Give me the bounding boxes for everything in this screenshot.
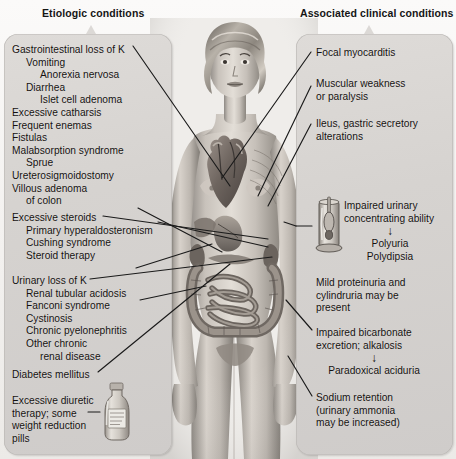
line-islet-cell-adenoma: Islet cell adenoma — [12, 94, 125, 107]
line-fanconi-syndrome: Fanconi syndrome — [12, 300, 127, 313]
line-renal-tubular-acidosis: Renal tubular acidosis — [12, 288, 127, 301]
group-diuretic-therapy: Excessive diuretic therapy; some weight … — [12, 395, 94, 445]
line-sprue: Sprue — [12, 157, 125, 170]
arrow-down-icon-urinary: ↓ — [344, 225, 436, 238]
item-ileus-gastric: Ileus, gastric secretory alterations — [316, 118, 418, 143]
item-sodium-retention: Sodium retention (urinary ammonia may be… — [316, 392, 400, 430]
panel-notch-left — [86, 25, 96, 34]
line-weight-reduction: weight reduction — [12, 420, 94, 433]
text-paradoxical-aciduria: Paradoxical aciduria — [316, 365, 432, 378]
group-gastrointestinal-loss: Gastrointestinal loss of K Vomiting Anor… — [12, 44, 125, 208]
line-urinary-loss-k: Urinary loss of K — [12, 275, 127, 288]
text-mild-proteinuria-3: present — [316, 302, 405, 315]
text-mild-proteinuria-2: cylindruria may be — [316, 290, 405, 303]
item-impaired-bicarbonate: Impaired bicarbonate excretion; alkalosi… — [316, 327, 432, 378]
text-muscular-weakness-1: Muscular weakness — [316, 78, 405, 91]
line-malabsorption: Malabsorption syndrome — [12, 145, 125, 158]
line-therapy-some: therapy; some — [12, 408, 94, 421]
line-excessive-catharsis: Excessive catharsis — [12, 107, 125, 120]
text-polyuria: Polyuria — [344, 238, 436, 251]
text-muscular-weakness-2: or paralysis — [316, 91, 405, 104]
text-mild-proteinuria-1: Mild proteinuria and — [316, 277, 405, 290]
text-ileus-gastric-1: Ileus, gastric secretory — [316, 118, 418, 131]
panel-notch-right — [364, 25, 374, 34]
text-sodium-retention-3: may be increased) — [316, 417, 400, 430]
item-muscular-weakness: Muscular weakness or paralysis — [316, 78, 405, 103]
line-cushing-syndrome: Cushing syndrome — [12, 237, 153, 250]
panel-title-etiologic: Etiologic conditions — [42, 7, 144, 19]
line-pills: pills — [12, 433, 94, 446]
arrow-down-icon-bicarbonate: ↓ — [316, 352, 432, 365]
urinometer-icon — [312, 196, 346, 256]
line-excessive-diuretic: Excessive diuretic — [12, 395, 94, 408]
text-focal-myocarditis: Focal myocarditis — [316, 47, 395, 60]
text-impaired-bicarbonate-1: Impaired bicarbonate — [316, 327, 432, 340]
item-impaired-urinary-concentrating: Impaired urinary concentrating ability ↓… — [344, 200, 436, 263]
diagram-canvas: Etiologic conditions Associated clinical… — [0, 0, 456, 459]
item-mild-proteinuria: Mild proteinuria and cylindruria may be … — [316, 277, 405, 315]
text-polydipsia: Polydipsia — [344, 251, 436, 264]
text-sodium-retention-2: (urinary ammonia — [316, 405, 400, 418]
group-diabetes-mellitus: Diabetes mellitus — [12, 369, 90, 382]
line-ureterosigmoidostomy: Ureterosigmoidostomy — [12, 170, 125, 183]
line-renal-disease: renal disease — [12, 351, 127, 364]
line-villous-adenoma: Villous adenoma — [12, 183, 125, 196]
line-of-colon: of colon — [12, 195, 125, 208]
line-fistulas: Fistulas — [12, 132, 125, 145]
medicine-bottle-icon — [96, 381, 138, 443]
line-chronic-pyelonephritis: Chronic pyelonephritis — [12, 325, 127, 338]
line-other-chronic: Other chronic — [12, 338, 127, 351]
line-anorexia-nervosa: Anorexia nervosa — [12, 69, 125, 82]
line-steroid-therapy: Steroid therapy — [12, 250, 153, 263]
panel-title-associated: Associated clinical conditions — [300, 7, 454, 19]
line-diabetes-mellitus: Diabetes mellitus — [12, 369, 90, 382]
group-excessive-steroids: Excessive steroids Primary hyperaldoster… — [12, 212, 153, 262]
line-diarrhea: Diarrhea — [12, 82, 125, 95]
text-ileus-gastric-2: alterations — [316, 131, 418, 144]
group-urinary-loss: Urinary loss of K Renal tubular acidosis… — [12, 275, 127, 363]
text-sodium-retention-1: Sodium retention — [316, 392, 400, 405]
text-impaired-urinary-1: Impaired urinary — [344, 200, 436, 213]
item-focal-myocarditis: Focal myocarditis — [316, 47, 395, 60]
line-excessive-steroids: Excessive steroids — [12, 212, 153, 225]
line-primary-hyperaldosteronism: Primary hyperaldosteronism — [12, 225, 153, 238]
line-vomiting: Vomiting — [12, 57, 125, 70]
anatomy-illustration — [150, 18, 318, 459]
line-gi-loss: Gastrointestinal loss of K — [12, 44, 125, 57]
line-cystinosis: Cystinosis — [12, 313, 127, 326]
line-frequent-enemas: Frequent enemas — [12, 120, 125, 133]
